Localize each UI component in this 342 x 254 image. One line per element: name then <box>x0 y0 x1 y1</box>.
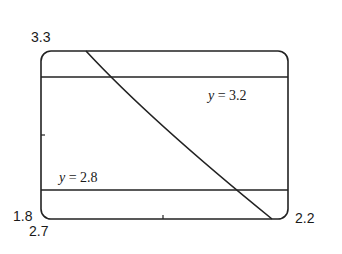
function-curve <box>86 51 272 219</box>
y-max-label: 3.3 <box>31 30 50 44</box>
graph-canvas <box>0 0 342 254</box>
lower-line-annotation: y = 2.8 <box>59 171 98 185</box>
y-min-label: 2.7 <box>29 224 48 238</box>
viewing-window-frame <box>41 51 288 219</box>
lower-line-value: = 2.8 <box>65 170 97 185</box>
upper-line-value: = 3.2 <box>214 88 246 103</box>
x-min-label: 1.8 <box>13 209 32 223</box>
x-max-label: 2.2 <box>295 211 314 225</box>
upper-line-annotation: y = 3.2 <box>208 89 247 103</box>
